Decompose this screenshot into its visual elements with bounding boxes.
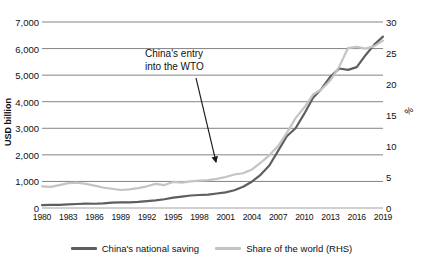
legend-label: Share of the world (RHS) [246, 243, 352, 254]
x-axis-tick-label: 1986 [85, 212, 103, 222]
legend-item-china-national-saving: China's national saving [71, 243, 199, 254]
legend-swatch-icon [71, 247, 97, 250]
x-axis-tick-label: 2013 [321, 212, 339, 222]
x-axis-tick-label: 2010 [295, 212, 313, 222]
x-axis-tick-label: 1995 [164, 212, 182, 222]
annotation-arrow-icon [196, 78, 216, 162]
legend-swatch-icon [215, 247, 241, 250]
x-axis-tick-label: 2007 [269, 212, 287, 222]
x-axis-tick-label: 2019 [374, 212, 392, 222]
x-axis-ticks: 1980198319861989199219951998200120042007… [0, 212, 423, 228]
x-axis-tick-label: 2016 [348, 212, 366, 222]
legend-label: China's national saving [102, 243, 199, 254]
x-axis-tick-label: 1989 [112, 212, 130, 222]
chart-legend: China's national saving Share of the wor… [0, 243, 423, 254]
annotation-line-2: into the WTO [145, 60, 204, 73]
series-line-2 [42, 41, 383, 190]
x-axis-tick-label: 1998 [190, 212, 208, 222]
annotation-line-1: China's entry [145, 47, 204, 60]
legend-item-share-of-the-world: Share of the world (RHS) [215, 243, 352, 254]
x-axis-tick-label: 2004 [243, 212, 261, 222]
series-lines [42, 37, 383, 205]
annotation-text: China's entry into the WTO [145, 47, 204, 73]
x-axis-tick-label: 1980 [33, 212, 51, 222]
x-axis-tick-label: 1992 [138, 212, 156, 222]
chart-container: USD billion 01,0002,0003,0004,0005,0006,… [0, 0, 423, 268]
x-axis-tick-label: 2001 [216, 212, 234, 222]
x-axis-tick-label: 1983 [59, 212, 77, 222]
